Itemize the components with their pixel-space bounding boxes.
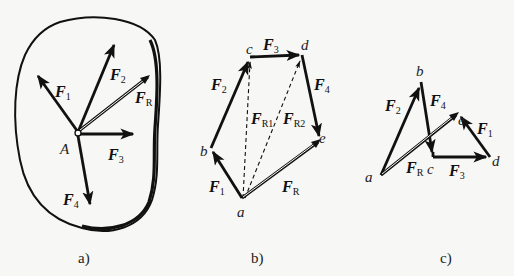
resultant-fr-arrow: [381, 112, 459, 175]
label-f4: F4: [429, 92, 446, 111]
point-label-e: e: [458, 112, 465, 128]
label-f2: F2: [384, 97, 401, 116]
force-f4-arrow: [78, 136, 90, 204]
label-fr1: FR1: [250, 110, 273, 129]
point-label-d: d: [301, 37, 309, 53]
force-f3-arrow: [250, 55, 299, 57]
point-label-c: c: [246, 41, 253, 57]
force-f2-arrow: [211, 62, 248, 148]
label-f1: F1: [208, 178, 225, 197]
label-f1: F1: [476, 120, 493, 139]
caption-b: b): [251, 250, 264, 267]
label-f3: F3: [107, 146, 124, 165]
label-fr: FR: [134, 89, 153, 108]
label-f3: F3: [448, 162, 465, 181]
label-f2: F2: [210, 76, 227, 95]
point-label-A: A: [59, 141, 70, 157]
point-label-a: a: [365, 169, 373, 185]
point-label-b: b: [416, 63, 424, 79]
label-f3: F3: [262, 36, 279, 55]
label-f2: F2: [109, 66, 126, 85]
label-f1: F1: [54, 83, 71, 102]
panel-c: a b c d e F2 F4 F1 FR F3 c): [365, 63, 500, 267]
label-fr2: FR2: [282, 110, 305, 129]
caption-c: c): [440, 250, 452, 267]
caption-a: a): [78, 250, 90, 267]
label-fr: FR: [281, 178, 300, 197]
force-polygon-diagram: A F1 F2 FR F3 F4 a) a b c d e F1 F2 F3 F…: [0, 0, 514, 276]
point-label-d: d: [492, 153, 500, 169]
point-a-node: [75, 130, 81, 136]
point-label-e: e: [319, 130, 326, 146]
panel-b: a b c d e F1 F2 F3 F4 FR1 FR2 FR b): [200, 36, 330, 267]
point-label-a: a: [237, 204, 245, 220]
panel-a: A F1 F2 FR F3 F4 a): [15, 17, 160, 267]
label-fr: FR: [405, 159, 424, 178]
label-f4: F4: [313, 76, 330, 95]
point-label-b: b: [200, 143, 208, 159]
label-f4: F4: [62, 191, 79, 210]
resultant-fr1-dashed: [243, 62, 250, 198]
point-label-c: c: [427, 161, 434, 177]
